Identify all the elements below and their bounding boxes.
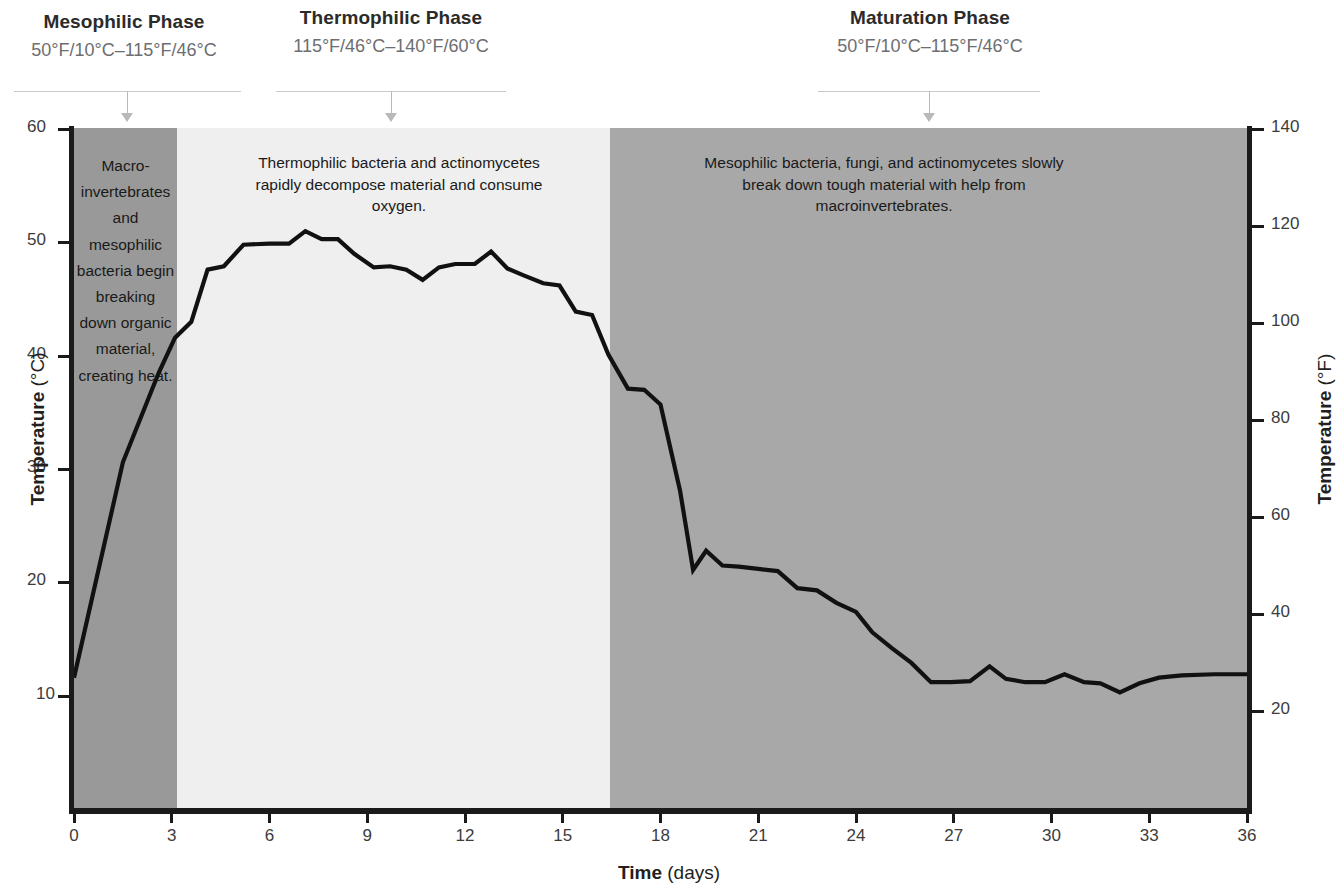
y-tick-right xyxy=(1252,419,1264,422)
x-ticklabel: 15 xyxy=(553,826,573,846)
phase-arrow-thermophilic xyxy=(385,91,397,122)
y-ticklabel-right: 100 xyxy=(1271,311,1299,331)
x-ticklabel: 27 xyxy=(944,826,964,846)
y-tick-left xyxy=(58,468,70,471)
x-ticklabel: 18 xyxy=(651,826,671,846)
y-tick-right xyxy=(1252,322,1264,325)
x-tick xyxy=(170,810,173,823)
phase-range: 50°F/10°C–115°F/46°C xyxy=(780,33,1080,59)
x-ticklabel: 6 xyxy=(260,826,280,846)
x-tick xyxy=(952,810,955,823)
x-tick xyxy=(757,810,760,823)
x-ticklabel: 36 xyxy=(1237,826,1257,846)
y-tick-left xyxy=(58,241,70,244)
y-axis-left-title: Temperature (°C) xyxy=(27,329,49,529)
x-tick xyxy=(268,810,271,823)
y-axis-left-title-text: Temperature xyxy=(27,392,48,506)
y-ticklabel-left: 20 xyxy=(27,570,46,590)
phase-arrow-mesophilic xyxy=(121,91,133,122)
y-tick-right xyxy=(1252,516,1264,519)
phase-header-thermophilic: Thermophilic Phase 115°F/46°C–140°F/60°C xyxy=(246,6,536,59)
phase-range: 115°F/46°C–140°F/60°C xyxy=(246,33,536,59)
y-tick-right xyxy=(1252,710,1264,713)
x-ticklabel: 9 xyxy=(357,826,377,846)
y-axis-right-title-text: Temperature xyxy=(1314,391,1335,505)
y-tick-left xyxy=(58,695,70,698)
phase-title: Maturation Phase xyxy=(780,6,1080,30)
x-tick xyxy=(1148,810,1151,823)
y-axis-right-title: Temperature (°F) xyxy=(1314,329,1336,529)
temperature-line-series xyxy=(74,128,1247,808)
y-tick-right xyxy=(1252,225,1264,228)
x-ticklabel: 21 xyxy=(748,826,768,846)
plot-area: Macro-invertebrates and mesophilic bacte… xyxy=(74,128,1247,808)
x-ticklabel: 33 xyxy=(1139,826,1159,846)
y-axis-right-line xyxy=(1247,126,1252,810)
y-ticklabel-right: 20 xyxy=(1271,699,1290,719)
composting-temperature-chart: Mesophilic Phase 50°F/10°C–115°F/46°C Th… xyxy=(0,0,1338,894)
y-ticklabel-right: 40 xyxy=(1271,602,1290,622)
x-axis-title-unit: (days) xyxy=(667,862,720,883)
y-ticklabel-right: 80 xyxy=(1271,408,1290,428)
x-axis-title-text: Time xyxy=(618,862,662,883)
y-ticklabel-right: 60 xyxy=(1271,505,1290,525)
y-tick-left xyxy=(58,128,70,131)
x-tick xyxy=(1246,810,1249,823)
phase-title: Thermophilic Phase xyxy=(246,6,536,30)
y-tick-right xyxy=(1252,613,1264,616)
x-axis-title: Time (days) xyxy=(0,862,1338,884)
x-tick xyxy=(464,810,467,823)
x-tick xyxy=(659,810,662,823)
phase-header-mesophilic: Mesophilic Phase 50°F/10°C–115°F/46°C xyxy=(0,10,248,63)
y-ticklabel-right: 120 xyxy=(1271,214,1299,234)
x-ticklabel: 3 xyxy=(162,826,182,846)
x-ticklabel: 0 xyxy=(64,826,84,846)
y-ticklabel-left: 10 xyxy=(36,684,55,704)
phase-arrow-maturation xyxy=(923,91,935,122)
x-ticklabel: 30 xyxy=(1042,826,1062,846)
y-ticklabel-left: 60 xyxy=(27,117,46,137)
x-tick xyxy=(561,810,564,823)
x-ticklabel: 12 xyxy=(455,826,475,846)
y-axis-left-title-unit: (°C) xyxy=(27,353,48,387)
x-tick xyxy=(1050,810,1053,823)
x-tick xyxy=(73,810,76,823)
x-tick xyxy=(366,810,369,823)
y-axis-right-title-unit: (°F) xyxy=(1314,354,1335,386)
phase-title: Mesophilic Phase xyxy=(0,10,248,34)
y-tick-left xyxy=(58,581,70,584)
x-tick xyxy=(855,810,858,823)
phase-header-maturation: Maturation Phase 50°F/10°C–115°F/46°C xyxy=(780,6,1080,59)
y-tick-right xyxy=(1252,128,1264,131)
y-ticklabel-left: 50 xyxy=(27,230,46,250)
y-tick-left xyxy=(58,355,70,358)
x-ticklabel: 24 xyxy=(846,826,866,846)
y-ticklabel-right: 140 xyxy=(1271,117,1299,137)
phase-range: 50°F/10°C–115°F/46°C xyxy=(0,37,248,63)
